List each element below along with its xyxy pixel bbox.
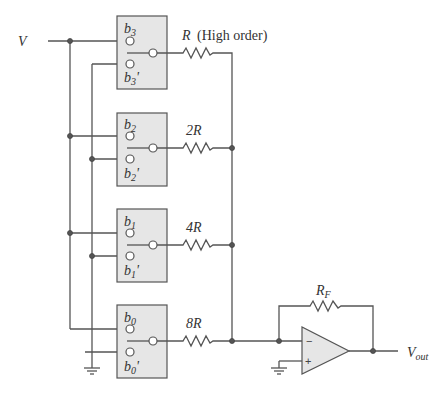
junction-node [68,134,73,139]
svg-text:R: R [181,28,191,43]
junction-node [68,231,73,236]
resistor-r: R (High order) [157,28,268,341]
dac-circuit-diagram: V b3 b3' b2 b2' [0,0,445,399]
ground-icon [84,368,100,374]
svg-text:+: + [305,355,311,367]
svg-text:8R: 8R [186,316,202,331]
resistor-4r: 4R [157,220,235,250]
output-voltage-label: Vout [407,345,429,362]
resistor-2r: 2R [157,123,235,153]
ground-icon [271,368,287,374]
svg-text:−: − [306,335,312,347]
input-voltage-label: V [18,34,28,49]
opamp: − + [271,327,398,374]
resistor-8r: 8R [157,316,302,346]
svg-text:2R: 2R [186,123,202,138]
svg-text:4R: 4R [186,220,202,235]
junction-node [68,39,73,44]
junction-node [90,254,95,259]
junction-node [90,157,95,162]
svg-text:RF: RF [315,283,332,300]
switch-b2: b2 b2' [117,113,167,186]
svg-text:(High order): (High order) [197,28,268,44]
